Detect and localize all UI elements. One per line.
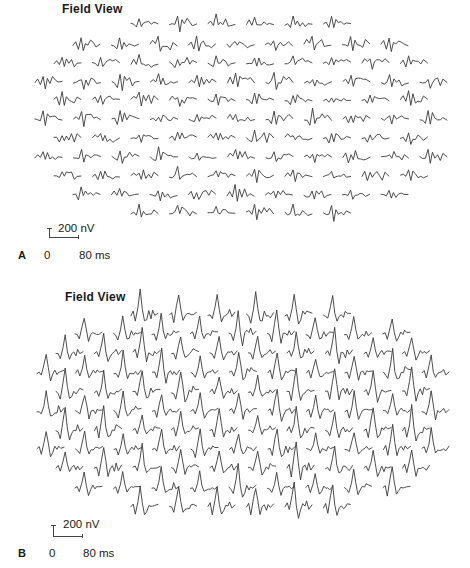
response-trace bbox=[382, 75, 409, 87]
response-trace bbox=[247, 292, 274, 324]
response-trace bbox=[345, 317, 372, 340]
response-trace bbox=[326, 327, 353, 363]
response-trace bbox=[287, 332, 314, 358]
response-trace bbox=[191, 429, 218, 458]
response-trace bbox=[112, 151, 139, 164]
response-trace bbox=[56, 452, 83, 472]
response-trace bbox=[422, 355, 449, 378]
response-trace bbox=[401, 170, 428, 181]
response-trace bbox=[95, 333, 122, 361]
response-trace bbox=[191, 471, 218, 492]
response-trace bbox=[93, 171, 120, 180]
response-trace bbox=[306, 474, 333, 495]
response-trace bbox=[345, 469, 372, 495]
response-trace bbox=[75, 318, 102, 341]
response-trace bbox=[35, 77, 62, 89]
response-trace bbox=[151, 74, 178, 85]
response-trace bbox=[383, 319, 410, 341]
amplitude-scale-label: 200 nV bbox=[63, 518, 99, 530]
response-trace bbox=[324, 98, 351, 102]
response-trace bbox=[247, 130, 274, 143]
response-trace bbox=[364, 371, 391, 403]
response-trace bbox=[37, 432, 64, 457]
response-trace bbox=[170, 487, 197, 513]
response-trace bbox=[170, 16, 197, 32]
response-trace bbox=[191, 356, 218, 378]
response-trace bbox=[401, 56, 428, 67]
response-trace bbox=[210, 377, 237, 398]
scale-tick bbox=[82, 534, 83, 538]
response-trace bbox=[403, 367, 430, 401]
time-end-label: 80 ms bbox=[79, 249, 110, 261]
response-trace bbox=[403, 338, 430, 360]
response-trace bbox=[54, 172, 81, 180]
time-scale-line bbox=[49, 237, 79, 238]
response-trace bbox=[326, 446, 353, 473]
response-trace bbox=[249, 451, 276, 475]
response-trace bbox=[324, 58, 351, 65]
response-trace bbox=[191, 316, 218, 339]
response-trace bbox=[343, 151, 370, 163]
response-trace bbox=[364, 338, 391, 358]
response-trace bbox=[133, 415, 160, 434]
trace-array-a bbox=[0, 0, 470, 284]
response-trace bbox=[73, 187, 100, 200]
response-trace bbox=[208, 171, 235, 178]
response-trace bbox=[345, 356, 372, 380]
response-trace bbox=[208, 206, 235, 213]
response-trace bbox=[247, 169, 274, 182]
response-trace bbox=[172, 337, 199, 359]
response-trace bbox=[170, 132, 197, 140]
response-trace bbox=[151, 115, 178, 121]
response-trace bbox=[324, 134, 351, 143]
response-trace bbox=[304, 36, 331, 50]
response-trace bbox=[268, 472, 295, 495]
response-trace bbox=[114, 434, 141, 455]
response-trace bbox=[305, 154, 332, 162]
response-trace bbox=[364, 450, 391, 476]
response-trace bbox=[381, 38, 408, 52]
response-trace bbox=[228, 150, 255, 160]
response-trace bbox=[268, 389, 295, 421]
response-trace bbox=[189, 75, 216, 87]
response-trace bbox=[420, 111, 447, 125]
response-trace bbox=[266, 152, 293, 162]
response-trace bbox=[131, 204, 158, 217]
response-trace bbox=[114, 472, 141, 494]
time-zero-label: 0 bbox=[49, 547, 55, 559]
response-trace bbox=[76, 355, 103, 377]
response-trace bbox=[112, 74, 139, 90]
response-trace bbox=[189, 191, 216, 200]
scale-tick bbox=[78, 235, 79, 239]
response-trace bbox=[208, 56, 235, 67]
response-trace bbox=[249, 375, 276, 396]
time-scale-line bbox=[53, 536, 83, 537]
response-trace bbox=[208, 94, 235, 105]
response-trace bbox=[131, 92, 158, 106]
response-trace bbox=[285, 16, 312, 27]
response-trace bbox=[35, 111, 62, 126]
response-trace bbox=[230, 434, 257, 454]
response-trace bbox=[287, 442, 314, 480]
response-trace bbox=[210, 451, 237, 473]
response-trace bbox=[247, 489, 274, 515]
response-trace bbox=[324, 296, 351, 322]
response-trace bbox=[170, 57, 197, 67]
response-trace bbox=[383, 467, 410, 496]
response-trace bbox=[170, 295, 197, 323]
response-trace bbox=[74, 78, 101, 89]
response-trace bbox=[362, 134, 389, 142]
response-trace bbox=[35, 152, 62, 160]
response-trace bbox=[131, 170, 158, 180]
time-zero-label: 0 bbox=[44, 249, 50, 261]
response-trace bbox=[172, 411, 199, 436]
response-trace bbox=[247, 204, 274, 219]
response-trace bbox=[403, 450, 430, 476]
response-trace bbox=[268, 429, 295, 457]
response-trace bbox=[114, 316, 141, 340]
response-trace bbox=[326, 369, 353, 400]
response-trace bbox=[266, 72, 293, 89]
response-trace bbox=[247, 17, 274, 25]
response-trace bbox=[93, 134, 120, 143]
response-trace bbox=[305, 108, 332, 125]
